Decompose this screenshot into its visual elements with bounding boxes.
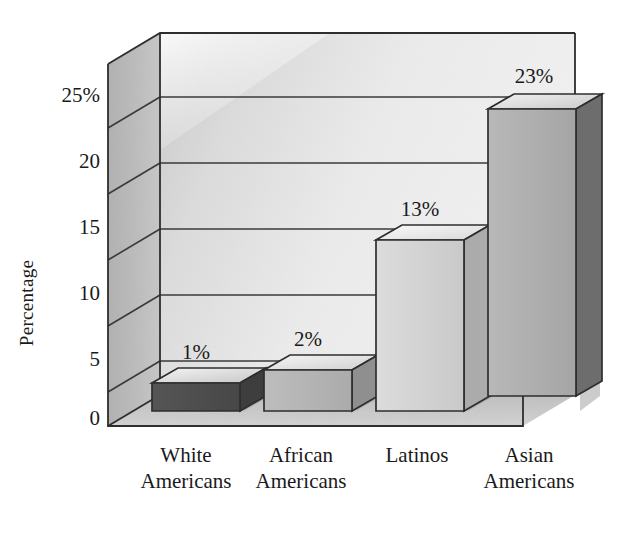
bar-2-face xyxy=(264,370,352,411)
bar-4-face xyxy=(488,109,576,396)
bar-3-face xyxy=(376,240,464,411)
x-category-label-asian-americans: Asian Americans xyxy=(449,443,609,494)
data-label-latinos: 13% xyxy=(370,197,470,222)
data-label-asian-americans: 23% xyxy=(484,64,584,89)
y-tick-label-5: 5 xyxy=(18,347,100,372)
y-tick-label-25: 25% xyxy=(18,83,100,108)
bar-4-side xyxy=(576,94,602,396)
data-label-white-americans: 1% xyxy=(156,340,236,365)
bar-3-side xyxy=(464,225,490,411)
bar-1-face xyxy=(152,383,240,411)
bar-latinos[interactable] xyxy=(376,225,494,411)
bar-chart: Percentage 25% 20 15 10 5 0 1% 2% 13% 23… xyxy=(0,0,619,533)
y-tick-label-20: 20 xyxy=(18,149,100,174)
cat-line-2: Americans xyxy=(221,469,381,495)
cat-line-2: Americans xyxy=(449,469,609,495)
bar-asian-americans[interactable] xyxy=(488,94,602,411)
y-tick-label-0: 0 xyxy=(18,406,100,431)
bar-african-americans[interactable] xyxy=(264,355,382,411)
left-wall xyxy=(108,33,160,426)
data-label-african-americans: 2% xyxy=(268,327,348,352)
y-tick-label-15: 15 xyxy=(18,215,100,240)
y-tick-label-10: 10 xyxy=(18,281,100,306)
bar-white-americans[interactable] xyxy=(152,368,270,411)
cat-line-1: Asian xyxy=(449,443,609,469)
